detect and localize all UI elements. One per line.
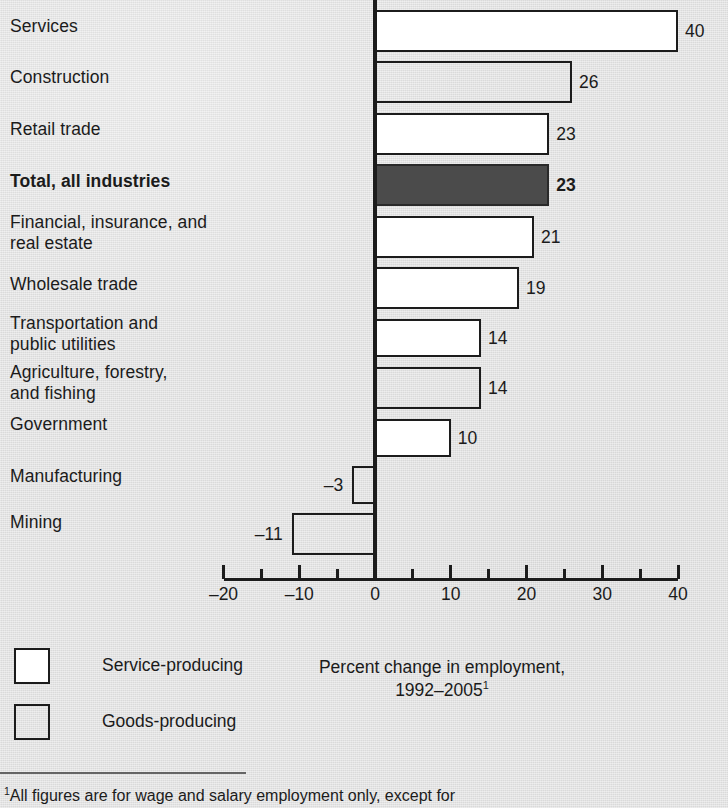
footnote: 1All figures are for wage and salary emp… <box>4 786 455 806</box>
category-label: Transportation and public utilities <box>10 313 158 355</box>
axis-tick-major <box>677 565 680 579</box>
bar-value-label: 23 <box>556 175 575 195</box>
category-label: Government <box>10 414 107 435</box>
axis-tick-label: 10 <box>441 584 460 605</box>
bar-value-label: –3 <box>324 475 343 495</box>
bar-value-label: 23 <box>556 124 575 144</box>
bar-value-label: 40 <box>685 21 704 41</box>
footnote-divider <box>0 772 246 774</box>
chart-sheet: Services40Construction26Retail trade23To… <box>0 0 728 808</box>
bar <box>375 419 451 457</box>
category-label: Mining <box>10 512 62 533</box>
axis-tick-major <box>525 565 528 579</box>
bar <box>375 164 549 206</box>
bar <box>352 466 375 504</box>
bar <box>375 10 678 52</box>
bar <box>375 319 481 357</box>
zero-axis-line <box>373 0 377 581</box>
category-label: Construction <box>10 67 109 88</box>
axis-tick-label: 40 <box>668 584 687 605</box>
category-label: Manufacturing <box>10 466 122 487</box>
bar <box>375 113 549 155</box>
bar-value-label: 14 <box>488 378 507 398</box>
chart-caption: Percent change in employment, 1992–20051 <box>282 656 602 702</box>
caption-footnote-marker: 1 <box>483 679 489 691</box>
category-label: Agriculture, forestry, and fishing <box>10 362 167 404</box>
caption-line-2: 1992–2005 <box>395 680 483 700</box>
category-label: Retail trade <box>10 119 101 140</box>
axis-tick-minor <box>336 569 339 579</box>
caption-line-1: Percent change in employment, <box>319 657 565 677</box>
footnote-text: All figures are for wage and salary empl… <box>10 787 455 804</box>
legend-label: Goods-producing <box>102 711 236 732</box>
legend-swatch-service <box>14 648 50 684</box>
category-label: Financial, insurance, and real estate <box>10 212 207 254</box>
legend-swatch-goods <box>14 704 50 740</box>
axis-tick-minor <box>563 569 566 579</box>
legend-item: Goods-producing <box>14 704 314 744</box>
axis-tick-label: 20 <box>517 584 536 605</box>
category-label: Services <box>10 16 78 37</box>
bar <box>375 267 519 309</box>
bar-value-label: –11 <box>255 524 283 544</box>
category-label: Wholesale trade <box>10 274 138 295</box>
x-axis: –20–10010203040 <box>0 556 728 616</box>
axis-tick-label: –10 <box>285 584 314 605</box>
bar-chart-plot-area: Services40Construction26Retail trade23To… <box>0 0 728 570</box>
axis-tick-label: 30 <box>593 584 612 605</box>
bar-value-label: 10 <box>458 428 477 448</box>
axis-tick-minor <box>260 569 263 579</box>
axis-tick-minor <box>639 569 642 579</box>
bar-value-label: 14 <box>488 328 507 348</box>
axis-tick-minor <box>487 569 490 579</box>
bar-value-label: 19 <box>526 278 545 298</box>
bar <box>375 367 481 409</box>
category-label: Total, all industries <box>10 171 170 192</box>
bar-value-label: 21 <box>541 227 560 247</box>
axis-tick-minor <box>411 569 414 579</box>
bar-value-label: 26 <box>579 72 598 92</box>
axis-tick-label: 0 <box>370 584 380 605</box>
bar <box>292 513 375 555</box>
axis-tick-major <box>222 565 225 579</box>
axis-tick-major <box>449 565 452 579</box>
legend-label: Service-producing <box>102 655 243 676</box>
axis-tick-label: –20 <box>209 584 238 605</box>
bar <box>375 216 534 258</box>
axis-tick-major <box>601 565 604 579</box>
legend-item: Service-producing <box>14 648 314 688</box>
bar <box>375 61 572 103</box>
axis-tick-major <box>298 565 301 579</box>
